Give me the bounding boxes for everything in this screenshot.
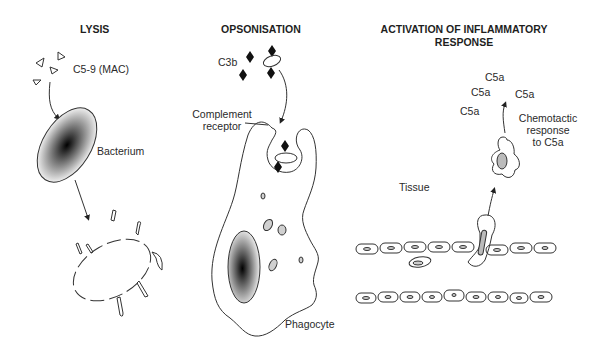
complement-receptor-line2: receptor <box>190 120 254 132</box>
lysed-bacterium-shape <box>63 226 162 313</box>
opsonisation-arrow <box>279 70 287 121</box>
mac-label: C5-9 (MAC) <box>73 63 129 75</box>
lysis-title: LYSIS <box>80 23 109 36</box>
bacterium-label: Bacterium <box>97 145 144 157</box>
c5a-label-4: C5a <box>460 105 479 117</box>
mac-pore-icons <box>76 210 162 316</box>
lysis-arrow-2 <box>75 180 88 218</box>
chemotactic-line2: response <box>512 124 584 136</box>
complement-receptor-label: Complement receptor <box>190 108 254 132</box>
chemotaxis-arrow-lower <box>488 190 494 216</box>
c5a-label-2: C5a <box>471 86 490 98</box>
c5a-label-1: C5a <box>485 71 504 83</box>
lysis-arrow-1 <box>49 82 58 118</box>
engulfed-c3b-icons <box>274 140 289 173</box>
tissue-label: Tissue <box>399 181 430 193</box>
transmigrating-leukocyte-nucleus <box>478 230 487 255</box>
inflammation-title: ACTIVATION OF INFLAMMATORY RESPONSE <box>380 23 548 48</box>
c3b-label: C3b <box>218 56 237 68</box>
migrated-leukocyte-nucleus <box>497 153 507 169</box>
rolling-leukocyte-nucleus <box>413 261 423 265</box>
complement-functions-diagram: LYSIS C5-9 (MAC) Bacterium OPSONISATION … <box>0 0 601 357</box>
chemotaxis-arrow-upper <box>503 104 505 133</box>
lysis-panel <box>25 52 162 316</box>
complement-receptor-line1: Complement <box>190 108 254 120</box>
opsonisation-title: OPSONISATION <box>221 23 301 36</box>
phagocyte-label: Phagocyte <box>285 318 335 330</box>
inflammation-title-line1: ACTIVATION OF INFLAMMATORY <box>380 23 548 36</box>
phagocyte-nucleus-shape <box>228 231 260 303</box>
inflammation-title-line2: RESPONSE <box>380 36 548 49</box>
granule-shapes <box>261 193 303 272</box>
c3b-diamond-icons <box>239 45 276 81</box>
bacterium-small-shape <box>262 53 282 69</box>
chemotactic-line1: Chemotactic <box>512 112 584 124</box>
opsonisation-panel <box>212 45 319 336</box>
chemotactic-label: Chemotactic response to C5a <box>512 112 584 148</box>
mac-triangle-icons <box>33 52 65 85</box>
vessel-wall-lower <box>356 290 552 303</box>
chemotactic-line3: to C5a <box>512 136 584 148</box>
vessel-wall-upper <box>356 242 556 255</box>
diagram-artwork <box>0 0 601 357</box>
c5a-label-3: C5a <box>515 88 534 100</box>
